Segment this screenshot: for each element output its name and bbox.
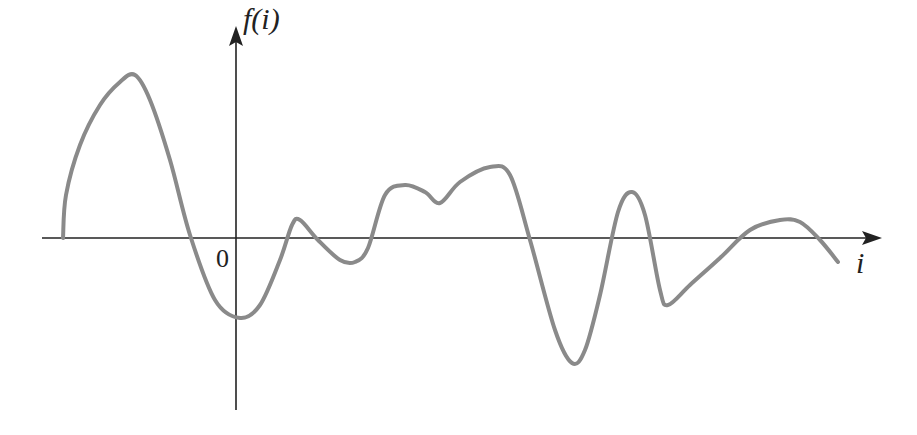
x-axis-label: i <box>856 246 864 280</box>
function-curve <box>63 74 838 364</box>
chart-canvas <box>0 0 917 435</box>
chart-figure: f(i) i 0 <box>0 0 917 435</box>
origin-label: 0 <box>216 244 229 274</box>
y-axis-label: f(i) <box>243 2 280 36</box>
